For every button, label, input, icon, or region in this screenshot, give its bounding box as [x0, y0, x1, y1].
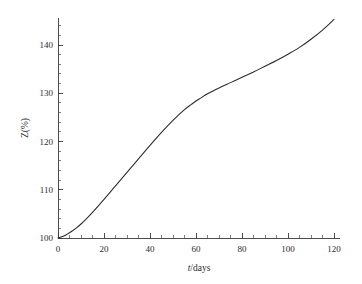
x-axis-title-unit: /days: [190, 263, 210, 273]
x-axis-title: t/days: [188, 263, 211, 273]
line-chart: 100 110 120 130 140 0 20 40 60 80 100 12…: [0, 0, 362, 284]
x-tick-label: 60: [192, 244, 202, 254]
x-axis-tick-labels: 0 20 40 60 80 100 120: [56, 244, 342, 254]
x-tick-label: 80: [238, 244, 248, 254]
y-axis-tick-labels: 100 110 120 130 140: [40, 40, 54, 243]
x-tick-label: 40: [146, 244, 156, 254]
x-axis-major-ticks: [58, 233, 334, 238]
y-tick-label: 130: [40, 88, 54, 98]
y-axis-title: Z(%): [20, 118, 31, 138]
y-tick-label: 120: [40, 137, 54, 147]
y-tick-label: 140: [40, 40, 54, 50]
y-axis-minor-ticks: [58, 26, 61, 229]
x-tick-label: 20: [100, 244, 110, 254]
x-tick-label: 120: [327, 244, 341, 254]
y-tick-label: 110: [40, 185, 54, 195]
x-tick-label: 0: [56, 244, 61, 254]
chart-figure: 100 110 120 130 140 0 20 40 60 80 100 12…: [0, 0, 362, 284]
data-series-line: [58, 19, 334, 238]
y-tick-label: 100: [40, 233, 54, 243]
x-tick-label: 100: [281, 244, 295, 254]
